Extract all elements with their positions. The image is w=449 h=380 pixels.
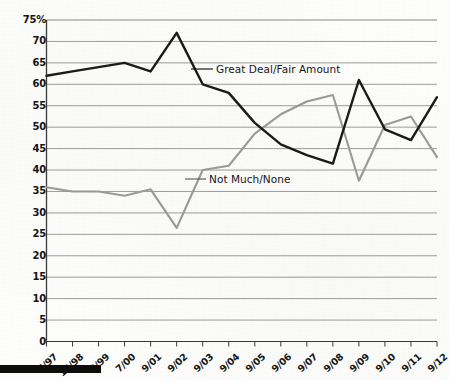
footer-rule-bar xyxy=(0,365,101,373)
y-axis-tick-labels: 75%7065605550454035302520151050 xyxy=(0,0,46,380)
y-tick-label: 50 xyxy=(4,122,46,132)
line-chart-plot xyxy=(0,0,449,380)
y-tick-label: 75% xyxy=(4,15,46,25)
y-tick-label: 35 xyxy=(4,186,46,196)
y-tick-label: 15 xyxy=(4,272,46,282)
y-tick-label: 25 xyxy=(4,229,46,239)
y-tick-label: 5 xyxy=(4,315,46,325)
series-label-not-much-none: Not Much/None xyxy=(209,173,290,185)
series-label-great-deal-fair-amount: Great Deal/Fair Amount xyxy=(216,63,340,75)
y-tick-label: 30 xyxy=(4,208,46,218)
y-tick-label: 10 xyxy=(4,294,46,304)
y-tick-label: 60 xyxy=(4,79,46,89)
y-tick-label: 65 xyxy=(4,58,46,68)
y-tick-label: 45 xyxy=(4,144,46,154)
y-tick-label: 55 xyxy=(4,101,46,111)
y-tick-label: 70 xyxy=(4,36,46,46)
y-tick-label: 40 xyxy=(4,165,46,175)
series-line-great-deal-fair-amount xyxy=(47,33,438,164)
x-tick-marks-group xyxy=(47,342,438,347)
y-tick-label: 20 xyxy=(4,251,46,261)
chart-container: 75%7065605550454035302520151050 6/9712/9… xyxy=(0,0,449,380)
y-tick-label: 0 xyxy=(4,337,46,347)
